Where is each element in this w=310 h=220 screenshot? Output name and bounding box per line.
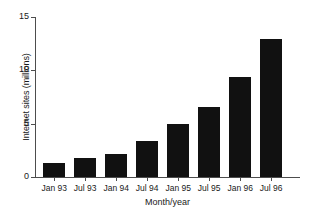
x-tick-label: Jul 95 bbox=[198, 183, 221, 193]
bar bbox=[136, 141, 158, 177]
x-tick-label: Jan 95 bbox=[165, 183, 191, 193]
x-tick-mark bbox=[271, 177, 272, 181]
x-tick-label: Jan 96 bbox=[227, 183, 253, 193]
y-axis-title: Internet sites (millions) bbox=[21, 17, 31, 177]
x-tick-label: Jul 96 bbox=[260, 183, 283, 193]
y-tick-label: 10 bbox=[19, 64, 29, 74]
y-tick-mark bbox=[31, 124, 35, 125]
x-tick-label: Jan 93 bbox=[41, 183, 67, 193]
y-tick-label: 0 bbox=[24, 171, 29, 181]
x-tick-mark bbox=[116, 177, 117, 181]
x-tick-mark bbox=[209, 177, 210, 181]
x-tick-label: Jul 94 bbox=[136, 183, 159, 193]
y-tick-mark bbox=[31, 70, 35, 71]
bar bbox=[198, 107, 220, 177]
bar bbox=[43, 163, 65, 177]
bar bbox=[229, 77, 251, 177]
y-tick-mark bbox=[31, 177, 35, 178]
bar-chart-figure: Internet sites (millions) Month/year 0 5… bbox=[0, 0, 310, 220]
x-tick-mark bbox=[240, 177, 241, 181]
x-tick-label: Jul 93 bbox=[74, 183, 97, 193]
y-tick-label: 5 bbox=[24, 118, 29, 128]
plot-area: 0 5 10 15 Jan 93Jul 93Jan 94Jul 94Jan 95… bbox=[35, 17, 300, 177]
y-axis-line bbox=[35, 17, 36, 178]
bar bbox=[260, 39, 282, 177]
x-axis-title: Month/year bbox=[35, 197, 300, 207]
x-tick-label: Jan 94 bbox=[103, 183, 129, 193]
x-tick-mark bbox=[147, 177, 148, 181]
y-tick-label: 15 bbox=[19, 11, 29, 21]
bar bbox=[105, 154, 127, 177]
x-axis-line bbox=[35, 177, 300, 178]
x-tick-mark bbox=[54, 177, 55, 181]
y-tick-mark bbox=[31, 17, 35, 18]
x-tick-mark bbox=[85, 177, 86, 181]
bar bbox=[167, 124, 189, 177]
x-tick-mark bbox=[178, 177, 179, 181]
bar bbox=[74, 158, 96, 177]
